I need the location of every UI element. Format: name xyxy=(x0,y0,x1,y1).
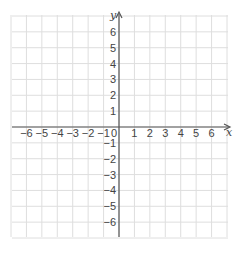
y-tick-label: −6 xyxy=(103,216,116,228)
x-tick-label: −6 xyxy=(20,127,33,139)
y-tick-label: −5 xyxy=(103,200,116,212)
x-tick-label: −5 xyxy=(36,127,49,139)
y-tick-label: −1 xyxy=(103,137,116,149)
y-tick-label: 1 xyxy=(110,105,116,117)
coordinate-plane: −6−5−4−3−2−11234560−6−5−4−3−2−1123456xy xyxy=(0,0,240,255)
x-axis-label: x xyxy=(226,126,233,139)
x-tick-label: −3 xyxy=(66,127,79,139)
y-tick-label: −2 xyxy=(103,153,116,165)
y-tick-label: 4 xyxy=(110,58,116,70)
x-tick-label: 5 xyxy=(193,127,199,139)
x-tick-label: −4 xyxy=(51,127,64,139)
x-tick-label: 1 xyxy=(131,127,137,139)
y-tick-label: 3 xyxy=(110,73,116,85)
x-tick-label: 2 xyxy=(147,127,153,139)
y-tick-label: 5 xyxy=(110,42,116,54)
y-axis-label: y xyxy=(109,9,117,22)
tick-labels: −6−5−4−3−2−11234560−6−5−4−3−2−1123456xy xyxy=(20,9,233,228)
y-tick-label: 6 xyxy=(110,26,116,38)
y-tick-label: −4 xyxy=(103,184,116,196)
x-tick-label: 4 xyxy=(178,127,184,139)
y-tick-label: 2 xyxy=(110,89,116,101)
x-tick-label: 6 xyxy=(209,127,215,139)
x-tick-label: −2 xyxy=(82,127,95,139)
axes xyxy=(12,12,230,237)
x-tick-label: 3 xyxy=(162,127,168,139)
y-tick-label: −3 xyxy=(103,169,116,181)
